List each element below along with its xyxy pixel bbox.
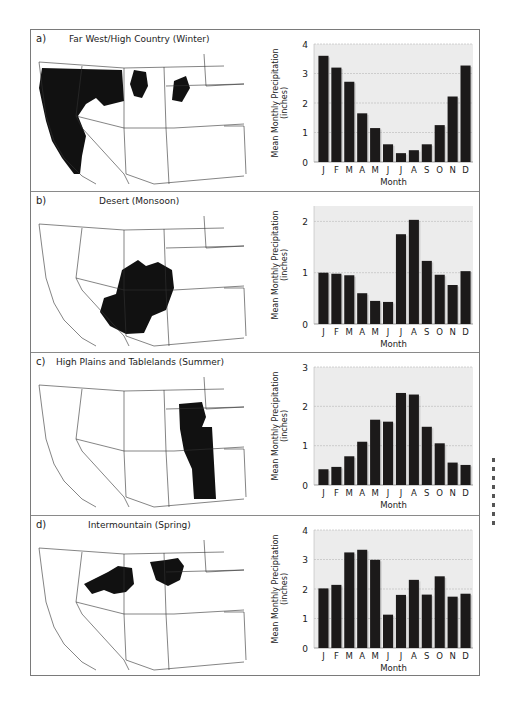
y-tick-label: 4 <box>302 526 308 536</box>
state-border <box>76 230 124 290</box>
x-tick-label: S <box>424 651 429 661</box>
x-tick-label: J <box>386 327 390 337</box>
y-axis-label-line: (inches) <box>280 249 289 281</box>
state-border <box>39 224 224 230</box>
panel-b: b) Desert (Monsoon) 012JFMAMJJASONDMonth… <box>31 192 479 353</box>
y-axis-label: Mean Monthly Precipitation(inches) <box>271 211 289 320</box>
climate-region <box>39 68 124 174</box>
state-border <box>39 385 224 391</box>
panel-letter: d) <box>36 519 46 530</box>
cropped-margin-text <box>492 458 505 538</box>
x-tick-label: F <box>334 165 339 175</box>
bar <box>318 56 328 162</box>
x-tick-label: J <box>399 327 403 337</box>
state-border <box>124 451 244 507</box>
y-tick-label: 1 <box>302 614 308 624</box>
y-axis-label-line: (inches) <box>280 573 289 605</box>
panel-title: Far West/High Country (Winter) <box>69 34 209 44</box>
x-tick-label: J <box>321 651 325 661</box>
y-axis-label-line: (inches) <box>280 87 289 119</box>
state-border <box>76 391 124 451</box>
panel-a: a) Far West/High Country (Winter) 01234J… <box>31 30 479 192</box>
x-tick-label: D <box>462 327 469 337</box>
state-border <box>124 614 244 670</box>
x-tick-label: M <box>346 488 353 498</box>
state-border <box>204 377 244 409</box>
x-tick-label: N <box>449 488 455 498</box>
x-axis-label: Month <box>380 177 407 187</box>
x-tick-label: A <box>411 327 417 337</box>
y-tick-label: 0 <box>302 320 308 330</box>
bar <box>344 82 354 162</box>
x-tick-label: D <box>462 651 469 661</box>
y-axis-label-line: Mean Monthly Precipitation <box>271 535 280 644</box>
bar <box>396 153 406 162</box>
bar <box>409 150 419 162</box>
bar <box>422 427 432 485</box>
state-border <box>39 62 224 68</box>
bar <box>357 442 367 485</box>
bar <box>461 594 471 648</box>
bar <box>318 469 328 485</box>
bar <box>422 595 432 648</box>
x-tick-label: A <box>359 165 365 175</box>
bar <box>461 66 471 162</box>
x-tick-label: M <box>346 651 353 661</box>
x-tick-label: N <box>449 165 455 175</box>
x-tick-label: A <box>359 327 365 337</box>
state-border <box>76 389 129 507</box>
state-border <box>164 390 169 507</box>
y-tick-label: 0 <box>302 158 308 168</box>
x-tick-label: D <box>462 488 469 498</box>
state-border <box>166 246 244 248</box>
x-tick-label: S <box>424 165 429 175</box>
panel-title: Desert (Monsoon) <box>99 196 179 206</box>
region-map <box>34 369 249 509</box>
bar <box>422 144 432 162</box>
bar <box>435 443 445 485</box>
x-tick-label: J <box>399 651 403 661</box>
x-tick-label: J <box>386 651 390 661</box>
panel-title: Intermountain (Spring) <box>88 520 191 530</box>
x-axis-label: Month <box>380 500 407 510</box>
y-axis-label: Mean Monthly Precipitation(inches) <box>271 372 289 481</box>
x-tick-label: M <box>371 488 378 498</box>
panel-letter: a) <box>36 33 46 44</box>
y-tick-label: 3 <box>302 69 308 79</box>
bar <box>331 467 341 485</box>
x-axis-label: Month <box>380 339 407 349</box>
x-tick-label: M <box>371 651 378 661</box>
bar <box>383 615 393 648</box>
climate-region <box>172 76 190 102</box>
x-axis-label: Month <box>380 663 407 673</box>
state-border <box>204 540 244 572</box>
y-axis-label: Mean Monthly Precipitation(inches) <box>271 49 289 158</box>
x-tick-label: J <box>321 165 325 175</box>
x-tick-label: F <box>334 488 339 498</box>
state-border <box>39 548 96 670</box>
x-tick-label: O <box>436 488 443 498</box>
y-axis-label-line: Mean Monthly Precipitation <box>271 49 280 158</box>
x-tick-label: J <box>399 488 403 498</box>
x-tick-label: J <box>321 327 325 337</box>
region-map <box>34 46 249 186</box>
bar <box>448 463 458 485</box>
bar <box>461 271 471 324</box>
y-tick-label: 2 <box>302 402 308 412</box>
x-tick-label: D <box>462 165 469 175</box>
state-border <box>39 224 96 346</box>
bar <box>370 560 380 648</box>
bar <box>383 144 393 162</box>
region-map <box>34 208 249 348</box>
x-tick-label: A <box>411 488 417 498</box>
climate-region <box>100 260 174 334</box>
bar-chart: 0123JFMAMJJASONDMonthMean Monthly Precip… <box>246 353 479 513</box>
state-border <box>39 385 96 507</box>
region-map <box>34 532 249 672</box>
state-border <box>224 288 246 336</box>
bar <box>383 302 393 324</box>
panel-letter: b) <box>36 195 46 206</box>
figure-frame: a) Far West/High Country (Winter) 01234J… <box>30 29 480 676</box>
bar <box>409 220 419 324</box>
y-axis-label: Mean Monthly Precipitation(inches) <box>271 535 289 644</box>
